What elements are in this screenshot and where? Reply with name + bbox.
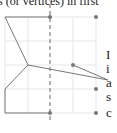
side-letter: i: [106, 62, 110, 75]
side-letter: a: [106, 76, 112, 89]
pointer-line: [73, 65, 108, 80]
geometry-figure: [0, 0, 117, 133]
side-letter: c: [106, 106, 112, 119]
side-letter: I: [106, 48, 110, 61]
side-letter: s: [106, 90, 111, 103]
